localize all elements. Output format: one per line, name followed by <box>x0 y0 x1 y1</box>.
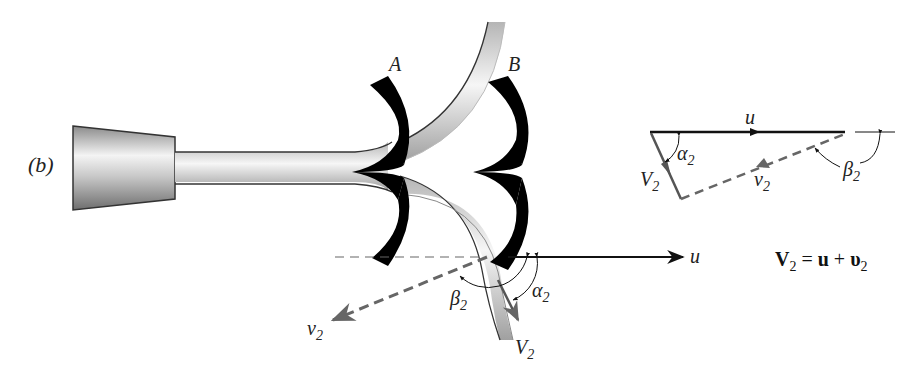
triangle-beta2-label: β2 <box>842 158 860 184</box>
nozzle <box>73 126 175 210</box>
velocity-equation: V2 = u + υ2 <box>775 248 868 274</box>
triangle-alpha2-label: α2 <box>677 142 695 168</box>
panel-label: (b) <box>28 152 54 177</box>
beta2-label: β2 <box>449 287 467 313</box>
pelton-wheel-diagram: (b) A B u v <box>0 0 922 380</box>
u-label: u <box>690 245 700 267</box>
bucket-b-label: B <box>508 53 520 75</box>
triangle-u-label: u <box>745 106 755 128</box>
water-jet <box>175 142 392 192</box>
v2-relative-label: v2 <box>307 317 323 343</box>
V2-absolute-label: V2 <box>515 336 534 362</box>
alpha2-label: α2 <box>532 279 550 305</box>
bucket-a-label: A <box>387 53 402 75</box>
triangle-v2-label: v2 <box>754 168 770 194</box>
upper-deflected-stream <box>400 22 505 162</box>
triangle-V2-label: V2 <box>640 168 659 194</box>
